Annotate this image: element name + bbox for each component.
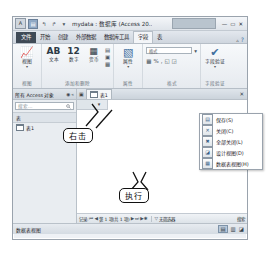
callout-leader-lines [0, 0, 260, 256]
right-click-callout: 右击 [63, 128, 93, 143]
execute-callout: 执行 [119, 188, 149, 203]
